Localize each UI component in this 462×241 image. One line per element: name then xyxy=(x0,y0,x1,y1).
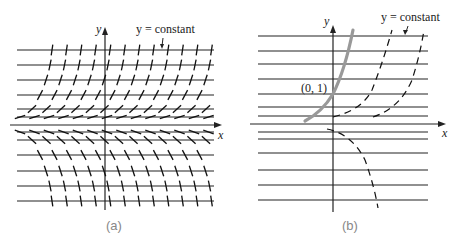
y-label-b: y xyxy=(323,14,330,28)
slope-mark xyxy=(211,196,213,207)
caption-b: (b) xyxy=(342,218,358,233)
slope-mark xyxy=(182,196,184,207)
annotation-arrowhead-a xyxy=(160,44,164,49)
slope-mark xyxy=(51,196,53,207)
caption-a: (a) xyxy=(106,218,122,233)
slope-mark xyxy=(95,196,97,207)
slope-mark xyxy=(153,196,155,207)
isoclines-b xyxy=(258,36,428,200)
solution-curve-dashed-2 xyxy=(373,30,424,117)
slope-mark xyxy=(167,196,169,207)
y-axis-arrow-b xyxy=(330,25,336,33)
y-axis-arrow-a xyxy=(102,27,108,35)
slope-mark xyxy=(138,45,140,56)
slope-mark xyxy=(95,45,97,56)
figure: y x y = constant (a) y x y = constant (0… xyxy=(0,0,462,241)
slope-mark xyxy=(124,196,126,207)
slope-mark xyxy=(196,45,198,56)
slope-mark xyxy=(138,196,140,207)
slope-mark xyxy=(182,45,184,56)
slope-mark xyxy=(66,45,68,56)
slope-mark xyxy=(196,196,198,207)
slope-mark xyxy=(109,45,111,56)
slope-mark xyxy=(51,45,53,56)
x-label-b: x xyxy=(441,126,448,140)
slope-mark xyxy=(66,196,68,207)
slope-mark xyxy=(80,196,82,207)
y-label-a: y xyxy=(95,22,102,36)
annotation-a: y = constant xyxy=(136,22,195,36)
x-label-a: x xyxy=(217,128,224,142)
slope-mark xyxy=(80,45,82,56)
annotation-arrowhead-b xyxy=(403,30,408,35)
slope-mark xyxy=(211,45,213,56)
solution-curve-dashed-3 xyxy=(327,129,378,208)
point-label: (0, 1) xyxy=(301,81,327,95)
slope-mark xyxy=(153,45,155,56)
slope-mark xyxy=(109,196,111,207)
annotation-b: y = constant xyxy=(381,10,440,24)
slope-mark xyxy=(167,45,169,56)
slope-mark xyxy=(124,45,126,56)
